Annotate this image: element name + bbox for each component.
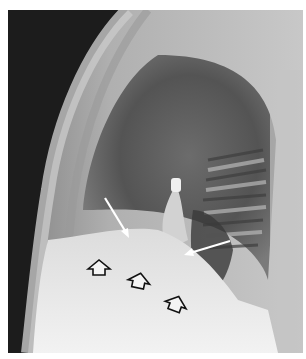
spine xyxy=(270,70,303,353)
xray-canvas xyxy=(8,10,303,353)
radiograph-image xyxy=(8,10,303,353)
